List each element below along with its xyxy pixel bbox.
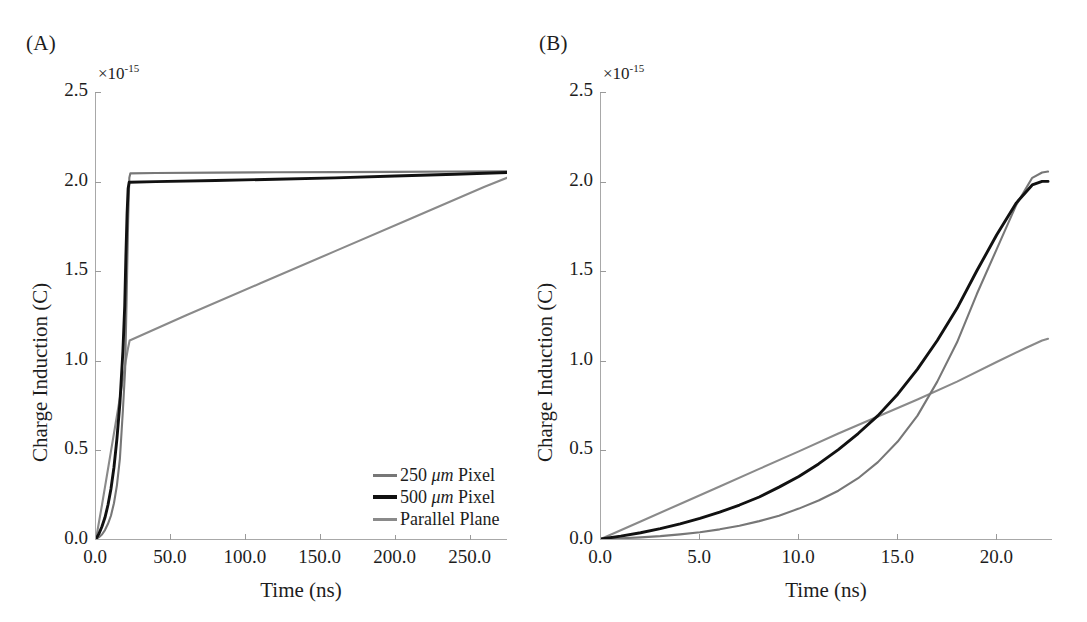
x-tick-mark: [245, 534, 246, 540]
x-tick-mark: [798, 534, 799, 540]
figure-charge-induction: (A) ×10-15 Charge Induction (C) 0.00.51.…: [0, 0, 1087, 622]
x-tick-label: 10.0: [756, 546, 840, 568]
panel-b-label: (B): [539, 31, 568, 56]
y-tick-mark: [600, 361, 606, 362]
y-tick-mark: [95, 271, 101, 272]
x-tick-label: 0.0: [53, 546, 137, 568]
legend-swatch-parallel-plane: [373, 518, 397, 521]
x-tick-label: 50.0: [128, 546, 212, 568]
y-tick-label: 2.5: [541, 79, 593, 101]
legend-swatch-500um: [373, 495, 397, 499]
y-tick-mark: [95, 361, 101, 362]
series-line: [601, 339, 1048, 539]
y-tick-label: 1.5: [36, 258, 88, 280]
panel-b-exponent-prefix: ×10: [603, 64, 630, 83]
panel-a-label: (A): [26, 31, 56, 56]
panel-b-plot-area: [601, 92, 1052, 539]
legend-item-500um: 500 μm Pixel: [373, 487, 499, 507]
x-tick-mark: [996, 534, 997, 540]
y-tick-label: 2.0: [36, 169, 88, 191]
panel-b-y-axis-title: Charge Induction (C): [533, 283, 558, 462]
panel-b: (B) ×10-15 Charge Induction (C) 0.00.51.…: [523, 0, 1087, 622]
legend-item-parallel-plane: Parallel Plane: [373, 509, 499, 529]
y-tick-mark: [600, 182, 606, 183]
x-tick-label: 100.0: [203, 546, 287, 568]
x-tick-mark: [897, 534, 898, 540]
x-tick-label: 250.0: [428, 546, 512, 568]
legend-label-500um: 500 μm Pixel: [400, 487, 495, 507]
panel-a-exponent-power: -15: [125, 62, 140, 74]
panel-b-exponent-power: -15: [630, 62, 645, 74]
series-line: [601, 172, 1048, 539]
legend-swatch-250um: [373, 474, 397, 477]
y-tick-mark: [600, 271, 606, 272]
panel-b-curves: [601, 92, 1052, 539]
x-tick-label: 15.0: [855, 546, 939, 568]
y-tick-mark: [95, 92, 101, 93]
panel-a-x-axis-title: Time (ns): [95, 578, 507, 603]
y-tick-label: 1.5: [541, 258, 593, 280]
x-tick-label: 0.0: [558, 546, 642, 568]
panel-a-legend: 250 μm Pixel 500 μm Pixel Parallel Plane: [366, 460, 508, 535]
y-tick-label: 0.5: [36, 437, 88, 459]
x-tick-mark: [320, 534, 321, 540]
x-tick-label: 20.0: [954, 546, 1038, 568]
panel-a: (A) ×10-15 Charge Induction (C) 0.00.51.…: [0, 0, 530, 622]
y-tick-label: 2.0: [541, 169, 593, 191]
panel-a-y-axis-title: Charge Induction (C): [28, 283, 53, 462]
panel-a-exponent-prefix: ×10: [98, 64, 125, 83]
x-tick-mark: [699, 534, 700, 540]
legend-item-250um: 250 μm Pixel: [373, 465, 499, 485]
panel-b-plot-frame: [600, 92, 1052, 540]
panel-b-x-axis-title: Time (ns): [600, 578, 1052, 603]
y-tick-mark: [95, 450, 101, 451]
y-tick-mark: [600, 92, 606, 93]
y-tick-label: 1.0: [36, 348, 88, 370]
panel-b-y-exponent: ×10-15: [603, 62, 644, 84]
x-tick-label: 5.0: [657, 546, 741, 568]
panel-a-y-exponent: ×10-15: [98, 62, 139, 84]
legend-label-parallel-plane: Parallel Plane: [400, 509, 499, 529]
y-tick-label: 0.5: [541, 437, 593, 459]
x-tick-label: 200.0: [353, 546, 437, 568]
y-tick-label: 2.5: [36, 79, 88, 101]
x-tick-label: 150.0: [278, 546, 362, 568]
y-tick-mark: [95, 182, 101, 183]
y-tick-label: 1.0: [541, 348, 593, 370]
series-line: [601, 181, 1048, 539]
legend-label-250um: 250 μm Pixel: [400, 465, 495, 485]
y-tick-mark: [600, 450, 606, 451]
x-tick-mark: [170, 534, 171, 540]
